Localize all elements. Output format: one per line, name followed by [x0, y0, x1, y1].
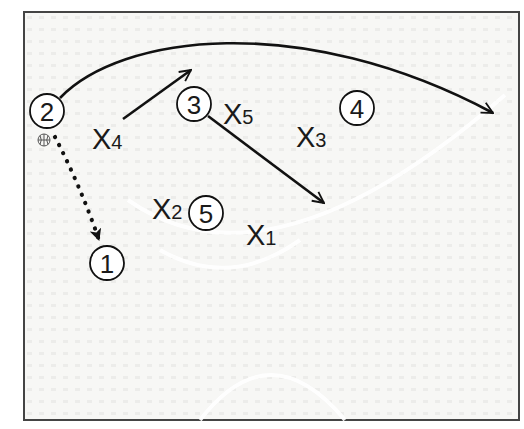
offense-player-3: 3 [177, 87, 211, 121]
offense-player-label: 1 [100, 249, 114, 279]
offense-player-label: 3 [187, 90, 201, 120]
offense-player-2: 2 [30, 94, 64, 128]
offense-player-label: 5 [199, 199, 213, 229]
offense-player-4: 4 [340, 91, 374, 125]
offense-player-label: 4 [350, 94, 364, 124]
play-diagram: 1 2 3 4 5 X1 X2 [0, 0, 524, 429]
offense-player-label: 2 [40, 97, 54, 127]
offense-player-1: 1 [90, 246, 124, 280]
offense-player-5: 5 [189, 196, 223, 230]
court-background [24, 12, 519, 420]
basketball-icon [38, 134, 50, 146]
